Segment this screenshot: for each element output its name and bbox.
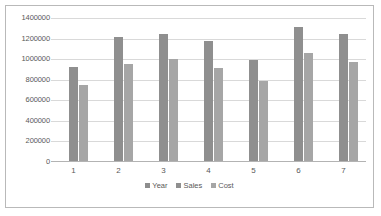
bar-cost-3[interactable] (169, 59, 178, 162)
bar-group (186, 18, 231, 162)
legend-label: Year (152, 182, 167, 190)
x-tick-label: 3 (141, 164, 186, 178)
bar-sales-6[interactable] (294, 27, 303, 162)
legend-label: Sales (183, 182, 202, 190)
bar-cost-6[interactable] (304, 53, 313, 162)
x-axis-line (51, 161, 366, 162)
plot-area (51, 18, 366, 162)
legend-label: Cost (218, 182, 233, 190)
x-tick-label: 1 (51, 164, 96, 178)
bar-sales-5[interactable] (249, 60, 258, 162)
bar-sales-7[interactable] (339, 34, 348, 162)
y-axis: 0200000400000600000800000100000012000001… (8, 18, 50, 162)
bar-sales-2[interactable] (114, 37, 123, 162)
x-tick-label: 7 (321, 164, 366, 178)
legend-item-sales[interactable]: Sales (176, 182, 202, 190)
chart-frame: 0200000400000600000800000100000012000001… (5, 5, 374, 208)
y-tick-label: 400000 (26, 117, 50, 125)
x-tick-label: 5 (231, 164, 276, 178)
bar-sales-4[interactable] (204, 41, 213, 162)
bar-cost-5[interactable] (259, 81, 268, 162)
y-tick-label: 1400000 (22, 14, 51, 22)
x-tick-label: 6 (276, 164, 321, 178)
y-tick-label: 1000000 (22, 55, 51, 63)
legend-swatch-icon (145, 183, 150, 188)
x-tick-label: 2 (96, 164, 141, 178)
x-axis: 1234567 (51, 164, 366, 178)
bar-group (96, 18, 141, 162)
y-tick-label: 200000 (26, 138, 50, 146)
chart-plot-wrapper: 0200000400000600000800000100000012000001… (6, 6, 373, 207)
bar-cost-2[interactable] (124, 64, 133, 162)
bar-sales-1[interactable] (69, 67, 78, 162)
x-tick-label: 4 (186, 164, 231, 178)
y-tick-label: 800000 (26, 76, 50, 84)
bar-group (321, 18, 366, 162)
chart-legend: YearSalesCost (6, 182, 373, 190)
legend-item-year[interactable]: Year (145, 182, 167, 190)
bar-group (141, 18, 186, 162)
y-tick-label: 0 (46, 158, 50, 166)
legend-swatch-icon (211, 183, 216, 188)
bar-group (231, 18, 276, 162)
bar-group (51, 18, 96, 162)
bars-layer (51, 18, 366, 162)
y-tick-label: 1200000 (22, 35, 51, 43)
bar-sales-3[interactable] (159, 34, 168, 162)
bar-cost-1[interactable] (79, 85, 88, 162)
y-tick-label: 600000 (26, 97, 50, 105)
legend-swatch-icon (176, 183, 181, 188)
bar-cost-7[interactable] (349, 62, 358, 162)
bar-group (276, 18, 321, 162)
bar-cost-4[interactable] (214, 68, 223, 162)
legend-item-cost[interactable]: Cost (211, 182, 233, 190)
